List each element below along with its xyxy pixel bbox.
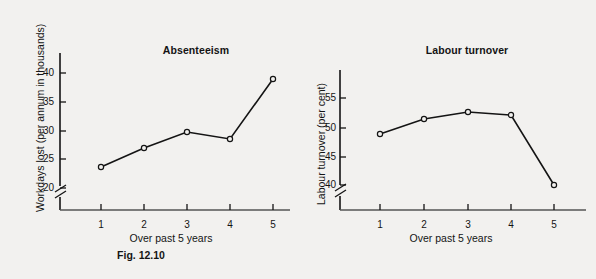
chart-labour-turnover: Labour turnover Labour turnover (per cen…: [298, 0, 596, 279]
plot-area-absenteeism: [0, 0, 298, 279]
data-line-absenteeism: [101, 79, 273, 167]
data-point-marker: [551, 182, 556, 187]
plot-area-labour-turnover: [298, 0, 596, 279]
data-point-marker: [421, 116, 426, 121]
data-point-marker: [184, 129, 189, 134]
data-point-marker: [98, 164, 103, 169]
data-point-marker: [508, 112, 513, 117]
data-point-marker: [377, 131, 382, 136]
figure-12-10: Absenteeism Workdays lost (per annum in …: [0, 0, 596, 279]
data-point-marker: [141, 145, 146, 150]
data-point-marker: [227, 136, 232, 141]
data-line-labour-turnover: [380, 112, 554, 185]
chart-absenteeism: Absenteeism Workdays lost (per annum in …: [0, 0, 298, 279]
figure-caption: Fig. 12.10: [105, 249, 177, 261]
axis-break-icon: [335, 190, 346, 197]
data-point-marker: [465, 109, 470, 114]
data-point-marker: [270, 76, 275, 81]
axis-break-icon: [55, 191, 66, 198]
